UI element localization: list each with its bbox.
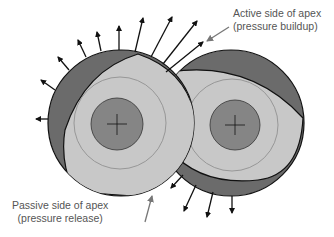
active-side-title: Active side of apex (233, 7, 321, 20)
passive-pointer-arrow (145, 196, 152, 222)
active-pointer-arrow (207, 27, 229, 41)
passive-side-title: Passive side of apex (12, 199, 108, 212)
left-rotor (48, 50, 196, 196)
passive-side-label: Passive side of apex (pressure release) (12, 199, 108, 225)
passive-side-note: (pressure release) (12, 212, 108, 225)
active-side-label: Active side of apex (pressure buildup) (233, 7, 321, 33)
active-side-note: (pressure buildup) (233, 20, 321, 33)
